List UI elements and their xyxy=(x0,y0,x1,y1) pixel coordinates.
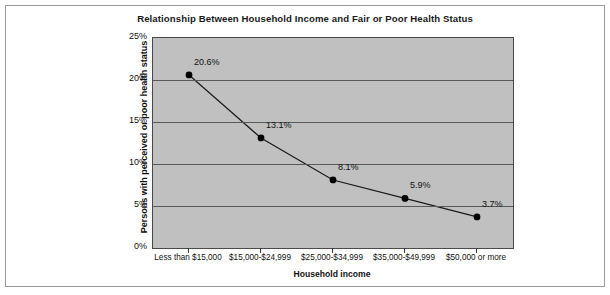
y-axis-tick-label: 10% xyxy=(103,157,147,167)
data-point-marker xyxy=(474,214,481,221)
data-point-label: 5.9% xyxy=(410,180,431,190)
gridline xyxy=(153,80,513,81)
y-axis-tick-label: 5% xyxy=(103,199,147,209)
data-point-marker xyxy=(330,177,337,184)
data-point-label: 3.7% xyxy=(482,199,503,209)
x-axis-title: Household income xyxy=(152,269,512,279)
data-point-marker xyxy=(186,72,193,79)
x-axis-tick-label: $25,000-$34,999 xyxy=(296,253,368,262)
y-axis-ticks: 25%20%15%10%5%0% xyxy=(103,0,147,295)
y-axis-tick-label: 15% xyxy=(103,115,147,125)
y-axis-tick-label: 25% xyxy=(103,31,147,41)
x-axis-tick-label: $35,000-$49,999 xyxy=(368,253,440,262)
chart-title: Relationship Between Household Income an… xyxy=(0,13,610,24)
data-point-label: 20.6% xyxy=(194,57,220,67)
x-axis-tick-label: $15,000-$24,999 xyxy=(224,253,296,262)
gridline xyxy=(153,164,513,165)
chart-page: Relationship Between Household Income an… xyxy=(0,0,610,295)
series-markers xyxy=(186,72,481,221)
x-axis-tick-label: $50,000 or more xyxy=(440,253,512,262)
series-line-chart xyxy=(153,38,513,248)
data-point-marker xyxy=(402,195,409,202)
series-line-path xyxy=(189,75,477,217)
data-point-label: 13.1% xyxy=(266,120,292,130)
plot-area xyxy=(152,37,514,249)
gridline xyxy=(153,122,513,123)
y-axis-tick-label: 0% xyxy=(103,241,147,251)
data-point-label: 8.1% xyxy=(338,162,359,172)
data-point-marker xyxy=(258,135,265,142)
gridline xyxy=(153,206,513,207)
y-axis-tick-label: 20% xyxy=(103,73,147,83)
x-axis-tick-label: Less than $15,000 xyxy=(152,253,224,262)
